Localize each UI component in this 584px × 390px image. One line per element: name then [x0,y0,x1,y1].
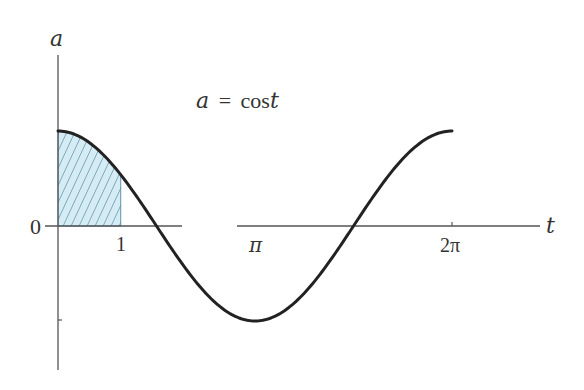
shaded-area-0-to-1 [58,131,121,226]
y-axis-label: a [50,26,63,51]
x-axis-label: t [546,213,555,238]
curve-annotation: a = cost [196,88,279,113]
cosine-chart: a t 0 1 π 2π a = cost [0,0,584,390]
y-tick-label-0: 0 [30,214,41,239]
x-tick-label-pi: π [248,233,263,257]
x-tick-label-2pi: 2π [440,234,460,256]
x-tick-label-1: 1 [116,233,126,255]
